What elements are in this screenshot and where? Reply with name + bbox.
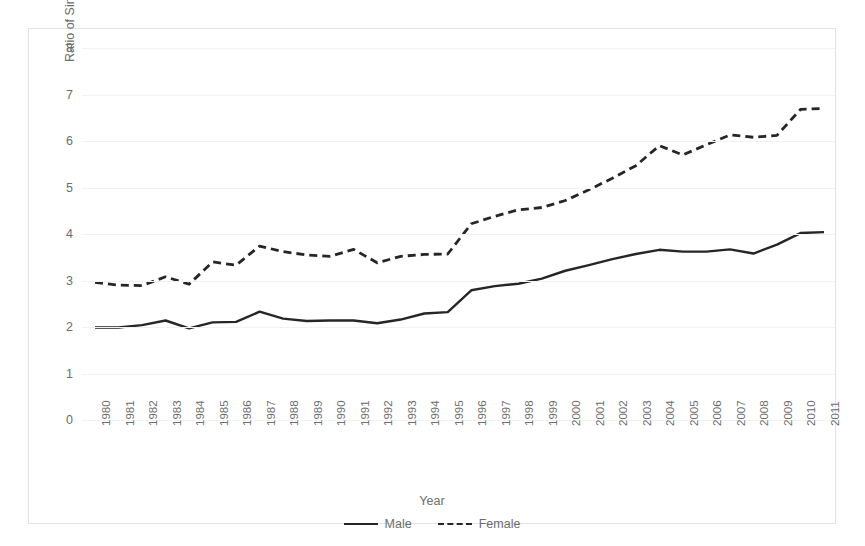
x-tick-label: 2000 [570,400,582,426]
legend-label: Male [385,517,412,531]
x-tick-label: 1993 [406,400,418,426]
gridline [82,188,837,189]
x-tick-label: 1991 [359,400,371,426]
chart-figure: Ratio of Simple/Aggravated Assault Arres… [28,28,836,524]
legend-swatch-female [438,523,472,525]
gridline [82,327,837,328]
x-tick-label: 1999 [547,400,559,426]
legend-entry-male[interactable]: Male [344,517,412,531]
x-tick-label: 2010 [805,400,817,426]
x-tick-label: 2003 [641,400,653,426]
x-tick-label: 1997 [500,400,512,426]
gridline [82,374,837,375]
x-tick-label: 1983 [171,400,183,426]
x-tick-label: 1996 [476,400,488,426]
gridline [82,234,837,235]
y-tick-label: 1 [66,367,73,381]
y-tick-label: 5 [66,181,73,195]
x-tick-label: 1987 [265,400,277,426]
chart-legend: MaleFemale [29,517,835,531]
x-tick-label: 1982 [147,400,159,426]
gridline [82,95,837,96]
y-tick-label: 2 [66,320,73,334]
x-tick-label: 2011 [829,401,841,426]
x-tick-label: 2007 [735,400,747,426]
x-tick-label: 1985 [218,400,230,426]
y-tick-label: 0 [66,413,73,427]
plot-area: 012345678 198019811982198319841985198619… [82,40,837,420]
y-tick-label: 7 [66,88,73,102]
x-tick-label: 2006 [711,400,723,426]
y-tick-label: 8 [66,41,73,55]
x-tick-label: 2005 [688,400,700,426]
legend-label: Female [479,517,521,531]
x-tick-labels: 1980198119821983198419851986198719881989… [82,420,837,498]
axes-region: 012345678 198019811982198319841985198619… [82,48,837,420]
x-tick-label: 1992 [382,400,394,426]
gridline [82,48,837,49]
x-tick-label: 1984 [194,400,206,426]
x-tick-label: 2001 [594,400,606,426]
x-tick-label: 1994 [429,400,441,426]
x-tick-label: 2002 [617,400,629,426]
gridline [82,141,837,142]
legend-entry-female[interactable]: Female [438,517,521,531]
gridline [82,281,837,282]
x-tick-label: 1980 [100,400,112,426]
x-tick-label: 1995 [453,400,465,426]
series-line-female [95,108,824,285]
y-tick-label: 3 [66,274,73,288]
y-tick-label: 4 [66,227,73,241]
x-tick-label: 1990 [335,400,347,426]
y-tick-label: 6 [66,134,73,148]
x-tick-label: 1981 [124,400,136,426]
x-axis-title: Year [29,494,835,508]
x-tick-label: 1986 [241,400,253,426]
x-tick-label: 1998 [523,400,535,426]
x-tick-label: 2008 [758,400,770,426]
x-tick-label: 2004 [664,400,676,426]
x-tick-label: 2009 [782,400,794,426]
legend-swatch-male [344,523,378,525]
x-tick-label: 1989 [312,400,324,426]
x-tick-label: 1988 [288,400,300,426]
